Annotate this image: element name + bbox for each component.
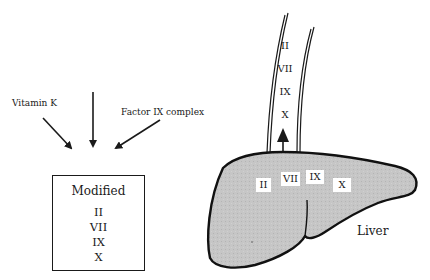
vessel-factor-list: II VII IX X [268,34,302,126]
factor-item: II [53,205,144,220]
factor-item: X [53,250,144,265]
liver-factor-tag: II [256,178,271,192]
factor-item: IX [53,235,144,250]
liver-factor-tag: X [333,178,351,192]
vessel-factor: VII [268,57,302,80]
factor-item: VII [53,220,144,235]
upward-flow-arrow [277,128,289,152]
liver-factor-tag: VII [281,172,300,186]
liver-factor-tag: IX [306,170,324,184]
factor-ix-complex-arrow [116,120,160,148]
liver-label: Liver [357,224,388,238]
vessel-factor: II [268,34,302,57]
vitamin-k-arrow [43,118,71,148]
modified-factors-box: Modified II VII IX X [52,175,145,271]
factor-ix-complex-label: Factor IX complex [121,107,204,117]
vitamin-k-label: Vitamin K [12,98,57,108]
modified-factor-list: II VII IX X [53,205,144,265]
vessel-factor: X [268,103,302,126]
vessel-factor: IX [268,80,302,103]
box-title: Modified [53,184,144,198]
